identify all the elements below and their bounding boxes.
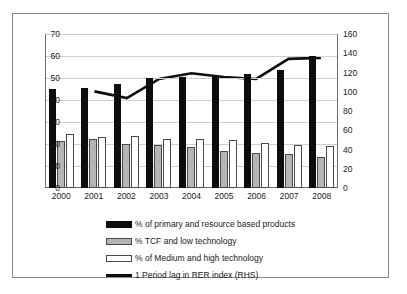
legend-label: 1 Period lag in RER index (RHS) — [135, 271, 258, 280]
bar-primary — [81, 88, 88, 188]
legend-swatch-line-icon — [106, 272, 132, 279]
legend-item[interactable]: % of Medium and high technology — [106, 251, 295, 265]
chart-legend: % of primary and resource based products… — [106, 217, 295, 282]
bar-group — [81, 34, 106, 188]
bar-tcf — [220, 151, 228, 188]
bar-tcf — [122, 144, 130, 188]
bar-primary — [114, 84, 121, 189]
bar-primary — [309, 56, 316, 188]
bar-group — [114, 34, 139, 188]
y-axis-right-tick: 0 — [343, 184, 367, 193]
bar-tcf — [317, 157, 325, 188]
bar-medhigh — [294, 145, 302, 188]
bar-group — [309, 34, 334, 188]
bar-primary — [244, 74, 251, 188]
x-axis-tick: 2008 — [302, 192, 342, 201]
bar-tcf — [252, 153, 260, 188]
bar-primary — [277, 70, 284, 188]
legend-swatch-tcf-icon — [106, 238, 132, 245]
legend-item[interactable]: % TCF and low technology — [106, 234, 295, 248]
bar-tcf — [187, 147, 195, 188]
y-axis-right-tick: 20 — [343, 165, 367, 174]
y-axis-right-tick: 100 — [343, 88, 367, 97]
bar-tcf — [154, 145, 162, 188]
bar-primary — [212, 75, 219, 188]
bar-group — [212, 34, 237, 188]
legend-item[interactable]: 1 Period lag in RER index (RHS) — [106, 268, 295, 282]
y-axis-right-tick: 160 — [343, 30, 367, 39]
y-axis-left-tick: 20 — [38, 140, 60, 149]
bar-tcf — [285, 154, 293, 188]
bar-group — [146, 34, 171, 188]
y-axis-left-tick: 10 — [38, 162, 60, 171]
legend-swatch-medhigh-icon — [106, 255, 132, 262]
bar-medhigh — [261, 143, 269, 188]
legend-item[interactable]: % of primary and resource based products — [106, 217, 295, 231]
bar-medhigh — [229, 140, 237, 188]
bar-group — [179, 34, 204, 188]
y-axis-left-tick: 50 — [38, 74, 60, 83]
y-axis-right-tick: 80 — [343, 107, 367, 116]
y-axis-left-tick: 40 — [38, 96, 60, 105]
y-axis-left-tick: 60 — [38, 52, 60, 61]
bar-primary — [146, 78, 153, 188]
y-axis-left-tick: 70 — [38, 30, 60, 39]
bar-medhigh — [163, 139, 171, 189]
bar-medhigh — [326, 146, 334, 188]
y-axis-right-tick: 60 — [343, 126, 367, 135]
bar-tcf — [89, 139, 97, 189]
legend-label: % of Medium and high technology — [135, 254, 263, 263]
y-axis-right-tick: 120 — [343, 69, 367, 78]
bar-medhigh — [131, 136, 139, 188]
legend-swatch-primary-icon — [106, 221, 132, 228]
bar-group — [277, 34, 302, 188]
figure-border: % of primary and resource based products… — [12, 13, 389, 278]
legend-label: % TCF and low technology — [135, 237, 236, 246]
bar-primary — [179, 77, 186, 188]
bar-medhigh — [66, 134, 74, 188]
bar-medhigh — [98, 137, 106, 188]
chart-figure: % of primary and resource based products… — [0, 0, 407, 294]
y-axis-right-tick: 40 — [343, 146, 367, 155]
y-axis-left-tick: 30 — [38, 118, 60, 127]
bar-medhigh — [196, 139, 204, 189]
legend-label: % of primary and resource based products — [135, 220, 295, 229]
y-axis-right-tick: 140 — [343, 49, 367, 58]
bar-group — [244, 34, 269, 188]
